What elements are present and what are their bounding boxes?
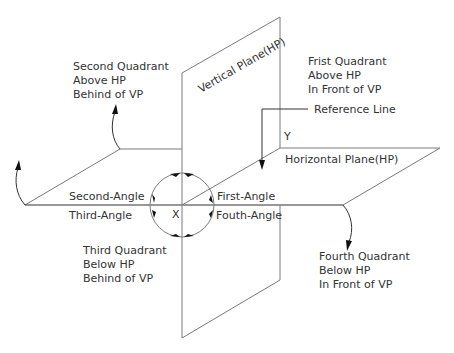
reference-line-label: Reference Line: [314, 103, 396, 116]
hp-rotation-arrow: [16, 168, 25, 205]
first-angle-label: First-Angle: [217, 190, 275, 203]
fourth-quadrant-text: Fourth Quadrant Below HP In Front of VP: [319, 250, 411, 291]
horizontal-plane-label: Horizontal Plane(HP): [285, 153, 398, 166]
y-axis-label: Y: [283, 130, 291, 143]
svg-text:Frist Quadrant: Frist Quadrant: [308, 55, 387, 68]
svg-text:Second Quadrant: Second Quadrant: [73, 60, 170, 73]
third-angle-label: Third-Angle: [68, 209, 132, 222]
fourth-angle-label: Fouth-Angle: [216, 209, 282, 222]
x-axis-label: X: [172, 208, 180, 221]
svg-text:Above HP: Above HP: [308, 69, 361, 82]
svg-text:Third Quadrant: Third Quadrant: [82, 244, 167, 257]
svg-text:In Front of VP: In Front of VP: [308, 83, 382, 96]
svg-text:Below HP: Below HP: [319, 264, 371, 277]
arrow-down-icon: [259, 160, 265, 170]
svg-text:Fourth Quadrant: Fourth Quadrant: [319, 250, 411, 263]
second-quadrant-text: Second Quadrant Above HP Behind of VP: [73, 60, 170, 101]
curved-arrows: [15, 104, 352, 251]
svg-text:Below HP: Below HP: [83, 258, 135, 271]
arrowhead-icon: [152, 194, 155, 203]
second-angle-label: Second-Angle: [69, 190, 145, 203]
svg-text:Behind of VP: Behind of VP: [73, 88, 143, 101]
svg-text:Behind of VP: Behind of VP: [83, 272, 153, 285]
vertical-plane-label: Vertical Plane(HP): [196, 35, 288, 95]
arrow-up-icon: [15, 160, 21, 170]
third-quadrant-text: Third Quadrant Below HP Behind of VP: [82, 244, 167, 285]
first-quadrant-text: Frist Quadrant Above HP In Front of VP: [308, 55, 387, 96]
second-quadrant-arrow: [112, 112, 120, 149]
quadrant-projection-diagram: Vertical Plane(HP) Horizontal Plane(HP) …: [0, 0, 454, 353]
svg-text:Above HP: Above HP: [73, 74, 126, 87]
svg-text:In Front of VP: In Front of VP: [319, 278, 393, 291]
arrow-up-icon: [112, 104, 118, 114]
fourth-quadrant-arrow: [343, 205, 352, 242]
